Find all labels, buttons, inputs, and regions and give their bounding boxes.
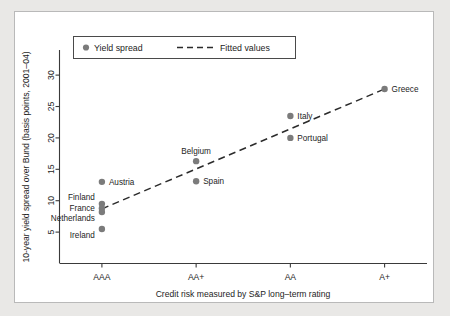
data-point-greece	[381, 86, 387, 92]
y-tick-label: 30	[47, 70, 57, 80]
data-label-italy: Italy	[297, 112, 313, 121]
data-point-italy	[287, 113, 293, 119]
y-tick-label: 20	[47, 133, 57, 143]
legend-marker-yield-spread	[83, 44, 89, 50]
x-tick-label: AAA	[93, 272, 110, 282]
data-point-portugal	[287, 135, 293, 141]
data-label-portugal: Portugal	[297, 134, 328, 143]
chart-plot-area: 51015202530 AAAAA+AAA+ Credit risk measu…	[15, 12, 435, 304]
data-label-greece: Greece	[392, 85, 419, 94]
figure-panel: 51015202530 AAAAA+AAA+ Credit risk measu…	[14, 11, 434, 303]
chart-axes	[60, 50, 428, 264]
data-point-belgium	[193, 158, 199, 164]
y-axis-title: 10-year yield spread over Bund (basis po…	[21, 51, 31, 262]
x-tick-label: AA	[285, 272, 297, 282]
data-point-ireland	[99, 226, 105, 232]
data-label-france: France	[69, 204, 95, 213]
data-label-austria: Austria	[109, 178, 135, 187]
y-axis-ticks: 51015202530	[47, 70, 60, 234]
data-label-ireland: Ireland	[70, 231, 95, 240]
fitted-values-segment	[102, 89, 385, 209]
data-points-group: AustriaFinlandFranceNetherlandsIrelandBe…	[51, 85, 419, 240]
y-tick-label: 25	[47, 102, 57, 112]
x-axis-ticks: AAAAA+AAA+	[93, 264, 390, 282]
data-label-netherlands: Netherlands	[51, 214, 95, 223]
y-tick-label: 15	[47, 164, 57, 174]
data-label-finland: Finland	[68, 193, 95, 202]
y-tick-label: 10	[47, 196, 57, 206]
legend-label-fitted-values: Fitted values	[220, 43, 270, 53]
data-label-spain: Spain	[203, 177, 224, 186]
x-tick-label: A+	[379, 272, 390, 282]
x-tick-label: AA+	[188, 272, 204, 282]
y-tick-label: 5	[47, 229, 57, 234]
x-axis-title: Credit risk measured by S&P long–term ra…	[156, 289, 331, 299]
legend-label-yield-spread: Yield spread	[94, 43, 143, 53]
data-point-austria	[99, 179, 105, 185]
data-point-netherlands	[99, 209, 105, 215]
data-point-spain	[193, 178, 199, 184]
fitted-values-line	[102, 89, 385, 209]
chart-legend: Yield spread Fitted values	[74, 37, 296, 59]
data-label-belgium: Belgium	[181, 147, 211, 156]
scatter-chart-svg: 51015202530 AAAAA+AAA+ Credit risk measu…	[15, 12, 435, 304]
